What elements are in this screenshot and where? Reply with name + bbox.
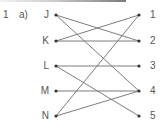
right-dot-2 [137, 39, 140, 42]
connection-line-j-4 [56, 15, 139, 91]
connection-line-n-1 [56, 15, 139, 116]
right-dot-3 [137, 64, 140, 67]
mapping-diagram [0, 0, 163, 127]
left-dot-k [54, 39, 57, 42]
right-dot-1 [137, 13, 140, 16]
left-dot-m [54, 89, 57, 92]
left-dot-n [54, 114, 57, 117]
left-dot-l [54, 64, 57, 67]
right-dot-5 [137, 114, 140, 117]
left-dot-j [54, 13, 57, 16]
connection-line-n-4 [56, 91, 139, 116]
right-dot-4 [137, 89, 140, 92]
